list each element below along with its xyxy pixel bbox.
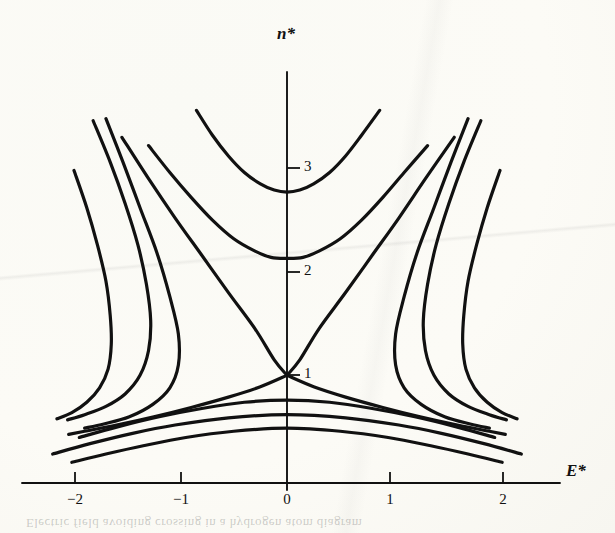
curve-s-curve-outer-right (463, 170, 517, 418)
y-tick-label: 1 (304, 365, 312, 382)
x-tick-label: 2 (489, 491, 517, 508)
curve-upper-manifold-n3 (196, 110, 379, 192)
scan-bleedthrough-caption: Electric field avoiding crossing in a hy… (26, 515, 362, 531)
curve-s-curve-outer-left (57, 170, 111, 418)
x-tick-label: 1 (376, 491, 404, 508)
curve-crossing-branch-upper-left (122, 137, 287, 375)
x-tick-label: −1 (167, 491, 195, 508)
curve-crossing-branch-upper-right (287, 137, 454, 375)
x-tick-label: 0 (273, 491, 301, 508)
x-axis-label: E* (566, 461, 586, 481)
x-tick-label: −2 (61, 491, 89, 508)
y-axis-label: n* (277, 24, 295, 44)
y-tick-label: 3 (304, 158, 312, 175)
stark-map-figure: n* E* −2−1012123 Electric field avoiding… (0, 0, 615, 533)
y-tick-label: 2 (304, 262, 312, 279)
